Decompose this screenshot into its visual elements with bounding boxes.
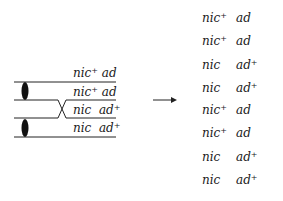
left-label-2: nic+ ad	[73, 86, 117, 98]
centromere-upper	[22, 82, 29, 100]
left-label-3: nic ad+	[73, 104, 120, 116]
left-label-4: nic ad+	[73, 122, 120, 134]
left-label-1: nic+ ad	[73, 67, 117, 79]
meiosis-diagram-lines	[0, 0, 283, 201]
centromere-lower	[22, 119, 29, 137]
right-arrow-icon	[171, 97, 177, 103]
